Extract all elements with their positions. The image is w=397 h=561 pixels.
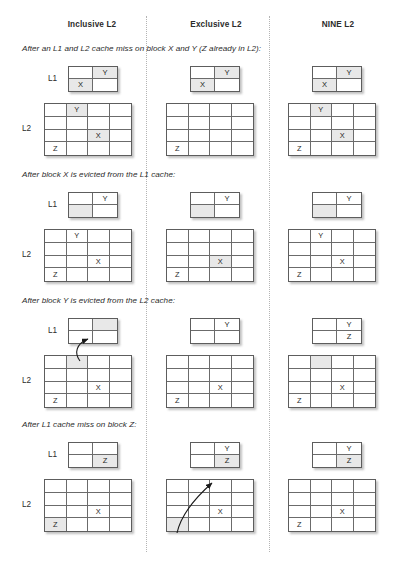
cache-cell-l1-r0-c1: Y — [337, 443, 361, 455]
cache-cell-l2-r0-c3 — [232, 356, 254, 369]
row-label-l2-section-3: L2 — [22, 376, 31, 385]
cache-cell-l1-r0-c1: Y — [93, 67, 117, 79]
cache-cell-l1-r0-c1: Y — [337, 319, 361, 331]
cache-cell-l2-r0-c0 — [45, 230, 67, 243]
cache-cell-l2-r1-c2 — [88, 493, 110, 506]
cache-cell-l2-r2-c3 — [354, 382, 376, 395]
cache-cell-l2-r2-c0 — [289, 506, 311, 519]
inclusive-l2-cache-3: XZ — [44, 355, 132, 408]
cache-cell-l2-r0-c1: Y — [311, 230, 333, 243]
cache-cell-l1-r0-c0 — [313, 67, 337, 79]
cache-cell-l2-r2-c2: X — [88, 130, 110, 143]
cache-cell-l2-r2-c2: X — [332, 506, 354, 519]
cache-cell-l2-r3-c0: Z — [45, 394, 67, 407]
cache-cell-l2-r3-c0: Z — [289, 142, 311, 155]
cache-cell-l2-r2-c1 — [67, 130, 89, 143]
cache-cell-l1-r0-c0 — [191, 193, 215, 205]
cache-cell-l2-r1-c2 — [210, 243, 232, 256]
cache-cell-l2-r1-c3 — [110, 117, 132, 130]
cache-cell-l2-r3-c1 — [189, 142, 211, 155]
cache-cell-l1-r0-c1: Y — [337, 67, 361, 79]
cache-cell-l2-r0-c0 — [289, 480, 311, 493]
exclusive-l2-cache-1: Z — [166, 103, 254, 156]
cache-cell-l2-r0-c2 — [332, 104, 354, 117]
cache-cell-l2-r2-c1 — [311, 130, 333, 143]
cache-cell-l2-r2-c1 — [189, 130, 211, 143]
cache-cell-l2-r1-c1 — [67, 117, 89, 130]
cache-cell-l2-r3-c1 — [311, 394, 333, 407]
cache-cell-l2-r3-c1 — [189, 518, 211, 531]
cache-cell-l1-r0-c1 — [93, 319, 117, 331]
cache-cell-l1-r0-c0 — [313, 193, 337, 205]
cache-cell-l1-r0-c1 — [93, 443, 117, 455]
cache-cell-l2-r2-c1 — [311, 256, 333, 269]
cache-cell-l2-r0-c1 — [311, 480, 333, 493]
cache-cell-l2-r2-c3 — [110, 130, 132, 143]
row-label-l1-section-4: L1 — [48, 450, 57, 459]
cache-cell-l1-r1-c1 — [337, 79, 361, 91]
cache-cell-l2-r3-c2 — [88, 268, 110, 281]
cache-cell-l1-r1-c0: X — [69, 79, 93, 91]
cache-cell-l2-r0-c2 — [210, 230, 232, 243]
cache-cell-l2-r1-c2 — [332, 117, 354, 130]
cache-cell-l2-r3-c1 — [311, 268, 333, 281]
cache-cell-l1-r0-c1: Y — [215, 193, 239, 205]
cache-cell-l2-r2-c2: X — [332, 256, 354, 269]
cache-cell-l2-r2-c1 — [67, 256, 89, 269]
cache-cell-l1-r0-c0 — [69, 443, 93, 455]
cache-cell-l1-r1-c1 — [93, 331, 117, 343]
cache-cell-l1-r0-c0 — [191, 443, 215, 455]
inclusive-l1-cache-4: Z — [68, 442, 118, 468]
cache-cell-l2-r3-c0: Z — [167, 268, 189, 281]
cache-cell-l2-r3-c2 — [88, 518, 110, 531]
cache-cell-l2-r3-c3 — [110, 268, 132, 281]
cache-cell-l2-r3-c0: Z — [289, 518, 311, 531]
cache-cell-l2-r0-c3 — [232, 104, 254, 117]
exclusive-l1-cache-2: Y — [190, 192, 240, 218]
cache-cell-l2-r0-c3 — [110, 356, 132, 369]
row-label-l2-section-1: L2 — [22, 124, 31, 133]
cache-cell-l2-r3-c3 — [354, 142, 376, 155]
cache-cell-l2-r1-c0 — [167, 117, 189, 130]
cache-cell-l2-r2-c0 — [167, 256, 189, 269]
nine-l1-cache-4: YZ — [312, 442, 362, 468]
nine-l1-cache-3: YZ — [312, 318, 362, 344]
cache-cell-l2-r2-c2: X — [88, 256, 110, 269]
cache-cell-l2-r2-c1 — [189, 382, 211, 395]
cache-cell-l2-r1-c1 — [189, 493, 211, 506]
cache-cell-l2-r0-c0 — [45, 104, 67, 117]
cache-cell-l2-r1-c3 — [110, 369, 132, 382]
cache-cell-l2-r2-c1 — [67, 506, 89, 519]
nine-l2-cache-1: YXZ — [288, 103, 376, 156]
cache-cell-l2-r0-c3 — [110, 230, 132, 243]
cache-cell-l1-r1-c1 — [215, 79, 239, 91]
cache-cell-l2-r2-c0 — [289, 382, 311, 395]
cache-cell-l2-r1-c3 — [354, 117, 376, 130]
cache-cell-l2-r1-c3 — [354, 243, 376, 256]
column-header-nine: NINE L2 — [290, 20, 386, 29]
inclusive-l1-cache-2: Y — [68, 192, 118, 218]
cache-cell-l2-r3-c1 — [67, 268, 89, 281]
nine-l2-cache-3: XZ — [288, 355, 376, 408]
cache-cell-l2-r1-c2 — [210, 493, 232, 506]
cache-cell-l2-r2-c2: X — [88, 382, 110, 395]
cache-cell-l2-r3-c0: Z — [289, 268, 311, 281]
section-caption-1: After an L1 and L2 cache miss on block X… — [22, 44, 261, 53]
cache-cell-l2-r1-c3 — [110, 493, 132, 506]
cache-cell-l2-r3-c2 — [210, 268, 232, 281]
row-label-l1-section-3: L1 — [48, 326, 57, 335]
cache-cell-l2-r0-c3 — [354, 480, 376, 493]
column-divider-left — [146, 16, 147, 552]
cache-cell-l1-r0-c1: Y — [215, 319, 239, 331]
cache-cell-l2-r2-c3 — [354, 256, 376, 269]
cache-cell-l2-r3-c2 — [210, 518, 232, 531]
cache-cell-l1-r1-c1: Z — [93, 455, 117, 467]
cache-cell-l2-r1-c1 — [189, 243, 211, 256]
cache-cell-l2-r1-c2 — [88, 369, 110, 382]
cache-cell-l2-r0-c3 — [354, 356, 376, 369]
cache-cell-l2-r0-c1 — [189, 356, 211, 369]
cache-cell-l2-r3-c1 — [189, 268, 211, 281]
cache-cell-l1-r0-c0 — [69, 193, 93, 205]
cache-cell-l2-r1-c3 — [354, 369, 376, 382]
cache-cell-l2-r2-c2: X — [332, 130, 354, 143]
